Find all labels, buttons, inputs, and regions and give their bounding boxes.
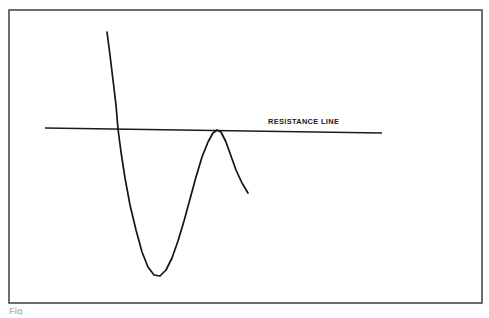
resistance-line-label: RESISTANCE LINE bbox=[268, 117, 339, 126]
figure-border bbox=[9, 10, 482, 303]
chart-canvas bbox=[0, 0, 489, 318]
figure-container: RESISTANCE LINE Fig bbox=[0, 0, 489, 318]
caption-fragment: Fig bbox=[9, 307, 35, 315]
